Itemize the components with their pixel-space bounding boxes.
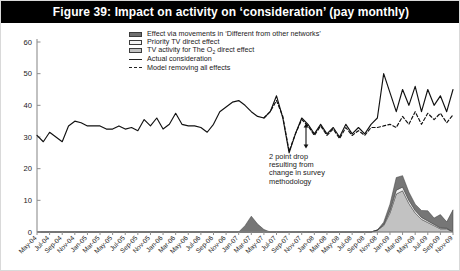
y-axis-tick-label: 30 [24, 133, 32, 142]
figure-container: Figure 39: Impact on activity on ‘consid… [0, 0, 460, 271]
line-series-actual [37, 74, 453, 153]
y-axis-tick-label: 60 [24, 38, 32, 47]
y-axis-tick-label: 50 [24, 69, 32, 78]
chart-plot-area: 0102030405060May-04Jul-04Sep-04Nov-04Jan… [1, 1, 460, 271]
y-axis-tick-label: 40 [24, 101, 32, 110]
y-axis-tick-label: 20 [24, 164, 32, 173]
line-series-model [264, 101, 453, 152]
y-axis-tick-label: 10 [24, 196, 32, 205]
annotation-line-3: methodology [269, 177, 312, 186]
arrow-head-down-icon [304, 145, 309, 149]
